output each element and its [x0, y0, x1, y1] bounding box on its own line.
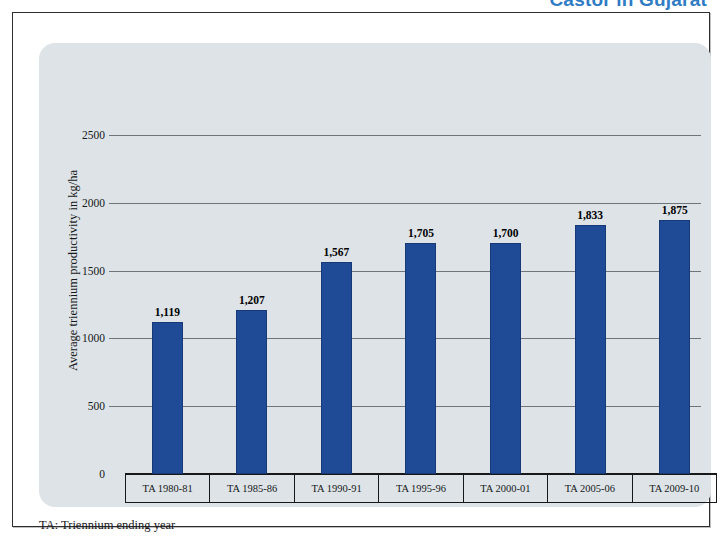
- bar[interactable]: [236, 310, 267, 474]
- bar-group[interactable]: 1,207: [210, 294, 295, 474]
- bar-value-label: 1,700: [493, 227, 519, 239]
- bar-group[interactable]: 1,833: [548, 209, 633, 474]
- gridline: [125, 135, 701, 136]
- x-axis-category-label: TA 2009-10: [633, 475, 716, 502]
- y-axis-title: Average triennium productivity in kg/ha: [66, 151, 81, 391]
- bar-value-label: 1,567: [323, 246, 349, 258]
- bar-value-label: 1,119: [155, 306, 180, 318]
- x-axis-category-label: TA 1990-91: [295, 475, 379, 502]
- bar-value-label: 1,207: [239, 294, 265, 306]
- figure-frame: Average triennium productivity in kg/ha …: [12, 12, 710, 527]
- x-axis-category-label: TA 1995-96: [379, 475, 463, 502]
- document-title: Castor in Gujarat: [549, 0, 707, 11]
- y-axis-tick-label: 500: [88, 400, 105, 412]
- bar[interactable]: [152, 322, 183, 474]
- bar-value-label: 1,833: [577, 209, 603, 221]
- y-axis-tick-label: 2500: [82, 129, 105, 141]
- y-axis-tick: [109, 406, 125, 407]
- chart-panel: Average triennium productivity in kg/ha …: [39, 43, 711, 507]
- y-axis-tick-label: 1000: [82, 332, 105, 344]
- x-axis-category-band: TA 1980-81TA 1985-86TA 1990-91TA 1995-96…: [125, 474, 717, 503]
- bar-group[interactable]: 1,567: [294, 246, 379, 474]
- bar-group[interactable]: 1,700: [463, 227, 548, 474]
- bar[interactable]: [405, 243, 436, 474]
- bar-value-label: 1,875: [662, 204, 688, 216]
- bar[interactable]: [490, 243, 521, 474]
- document-title-strip: Castor in Gujarat: [0, 0, 725, 12]
- y-axis-tick-label: 2000: [82, 197, 105, 209]
- y-axis-tick: [109, 203, 125, 204]
- bar[interactable]: [321, 262, 352, 474]
- x-axis-category-label: TA 1985-86: [210, 475, 294, 502]
- y-axis-tick-label: 0: [99, 468, 105, 480]
- bar-group[interactable]: 1,705: [379, 227, 464, 474]
- bar-value-label: 1,705: [408, 227, 434, 239]
- plot-area: 050010001500200025001,1191,2071,5671,705…: [125, 135, 725, 474]
- y-axis-tick: [109, 338, 125, 339]
- y-axis-tick-label: 1500: [82, 265, 105, 277]
- y-axis-tick: [109, 271, 125, 272]
- bar[interactable]: [659, 220, 690, 474]
- bar-group[interactable]: 1,875: [632, 204, 717, 474]
- bar-group[interactable]: 1,119: [125, 306, 210, 474]
- bar[interactable]: [575, 225, 606, 474]
- gridline: [125, 203, 701, 204]
- y-axis-tick: [109, 135, 125, 136]
- footnote: TA: Triennium ending year: [39, 518, 175, 533]
- x-axis-category-label: TA 2000-01: [464, 475, 548, 502]
- x-axis-category-label: TA 1980-81: [126, 475, 210, 502]
- x-axis-category-label: TA 2005-06: [548, 475, 632, 502]
